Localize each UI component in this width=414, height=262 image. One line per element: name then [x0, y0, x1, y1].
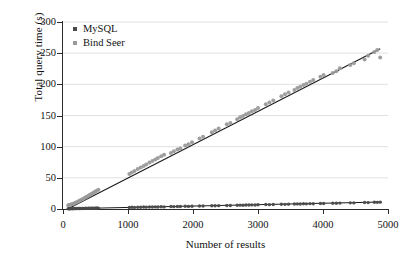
legend-item[interactable]: MySQL: [72, 22, 125, 36]
x-tick-mark: [128, 209, 129, 214]
y-tick-mark: [57, 84, 63, 85]
x-tick-label: 0: [43, 219, 83, 230]
x-tick-mark: [388, 209, 389, 214]
x-tick-label: 5000: [368, 219, 408, 230]
plot-svg: [63, 22, 388, 209]
legend-item[interactable]: Bind Seer: [72, 36, 125, 50]
y-tick-mark: [57, 178, 63, 179]
x-tick-mark: [258, 209, 259, 214]
x-tick-mark: [63, 209, 64, 214]
y-tick-mark: [57, 116, 63, 117]
x-tick-mark: [193, 209, 194, 214]
x-tick-label: 2000: [173, 219, 213, 230]
y-tick-label: 200: [22, 79, 56, 89]
y-tick-mark: [57, 53, 63, 54]
x-tick-mark: [323, 209, 324, 214]
chart-legend: MySQLBind Seer: [72, 22, 125, 50]
legend-label: Bind Seer: [83, 36, 125, 50]
y-tick-label: 300: [22, 17, 56, 27]
y-tick-label: 50: [22, 173, 56, 183]
y-tick-mark: [57, 22, 63, 23]
legend-marker-icon: [73, 27, 77, 31]
y-tick-mark: [57, 147, 63, 148]
x-tick-label: 1000: [108, 219, 148, 230]
series-bind-seer-points: [66, 48, 382, 207]
legend-label: MySQL: [83, 22, 117, 36]
y-tick-label: 100: [22, 142, 56, 152]
x-tick-label: 3000: [238, 219, 278, 230]
y-tick-label: 250: [22, 48, 56, 58]
legend-marker-icon: [73, 41, 77, 45]
x-axis-label: Number of results: [63, 238, 388, 250]
x-tick-label: 4000: [303, 219, 343, 230]
plot-area: [63, 22, 388, 209]
y-tick-label: 150: [22, 111, 56, 121]
x-axis-spine: [62, 209, 388, 210]
y-tick-label: 0: [22, 204, 56, 214]
chart-figure: Total query time (s) 050100150200250300 …: [0, 0, 414, 262]
